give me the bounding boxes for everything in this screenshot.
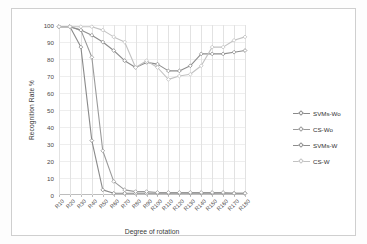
- plot-area: 0102030405060708090100 R10R20R30R40R50R6…: [59, 25, 245, 195]
- x-tick-mark: [103, 195, 104, 197]
- x-tick-label: R10: [54, 198, 66, 210]
- legend-marker-icon: [298, 158, 304, 164]
- series-line: [59, 27, 245, 194]
- legend-label: CS-W: [313, 158, 330, 165]
- data-series-layer: [59, 25, 245, 195]
- y-tick-label: 60: [47, 90, 59, 97]
- y-tick-label: 0: [51, 192, 59, 199]
- y-tick-label: 30: [47, 141, 59, 148]
- x-tick-label: R60: [108, 198, 120, 210]
- series-line: [59, 27, 245, 194]
- data-point-marker: [221, 52, 225, 56]
- legend-marker-icon: [298, 126, 304, 132]
- legend-marker-icon: [298, 142, 304, 148]
- data-point-marker: [177, 74, 181, 78]
- legend-label: SVMs-W: [313, 142, 337, 149]
- y-tick-label: 100: [44, 22, 59, 29]
- data-point-marker: [90, 139, 94, 143]
- legend-swatch-icon: [293, 110, 310, 117]
- data-point-marker: [243, 35, 247, 39]
- legend-swatch-icon: [293, 126, 310, 133]
- data-point-marker: [243, 49, 247, 53]
- y-tick-label: 80: [47, 56, 59, 63]
- x-tick-label: R80: [130, 198, 142, 210]
- data-point-marker: [243, 191, 247, 195]
- series-cs-wo: [57, 25, 247, 195]
- data-point-marker: [232, 191, 236, 195]
- y-tick-label: 70: [47, 73, 59, 80]
- legend-marker-icon: [298, 110, 304, 116]
- data-point-marker: [210, 52, 214, 56]
- data-point-marker: [112, 191, 116, 195]
- data-point-marker: [79, 25, 83, 29]
- legend-item-svms-w[interactable]: SVMs-W: [293, 137, 363, 153]
- legend-label: SVMs-Wo: [313, 110, 341, 117]
- data-point-marker: [177, 69, 181, 73]
- data-point-marker: [101, 188, 105, 192]
- chart-figure: Recognition Rate % Degree of rotation 01…: [0, 0, 367, 244]
- y-tick-label: 50: [47, 107, 59, 114]
- series-svms-wo: [57, 25, 247, 195]
- y-tick-label: 10: [47, 175, 59, 182]
- data-point-marker: [90, 25, 94, 29]
- chart-legend: SVMs-WoCS-WoSVMs-WCS-W: [293, 105, 363, 169]
- chart-frame: Recognition Rate % Degree of rotation 01…: [11, 8, 356, 236]
- data-point-marker: [123, 40, 127, 44]
- x-tick-mark: [59, 195, 60, 197]
- data-point-marker: [232, 50, 236, 54]
- x-tick-mark: [70, 195, 71, 197]
- legend-swatch-icon: [293, 142, 310, 149]
- y-tick-label: 40: [47, 124, 59, 131]
- x-tick-mark: [92, 195, 93, 197]
- x-tick-label: R70: [119, 198, 131, 210]
- series-svms-w: [57, 25, 247, 73]
- legend-swatch-icon: [293, 158, 310, 165]
- y-tick-label: 20: [47, 158, 59, 165]
- x-tick-label: R40: [87, 198, 99, 210]
- legend-item-svms-wo[interactable]: SVMs-Wo: [293, 105, 363, 121]
- series-cs-w: [57, 25, 247, 82]
- x-tick-label: R20: [65, 198, 77, 210]
- data-point-marker: [90, 55, 94, 59]
- x-tick-label: R50: [97, 198, 109, 210]
- legend-item-cs-wo[interactable]: CS-Wo: [293, 121, 363, 137]
- x-tick-mark: [81, 195, 82, 197]
- x-tick-label: R30: [76, 198, 88, 210]
- legend-label: CS-Wo: [313, 126, 333, 133]
- y-axis-title: Recognition Rate %: [28, 80, 35, 140]
- y-tick-label: 90: [47, 39, 59, 46]
- x-axis-title: Degree of rotation: [125, 228, 179, 235]
- legend-item-cs-w[interactable]: CS-W: [293, 153, 363, 169]
- x-tick-label: R180: [238, 198, 252, 212]
- series-line: [59, 27, 245, 80]
- data-point-marker: [101, 149, 105, 153]
